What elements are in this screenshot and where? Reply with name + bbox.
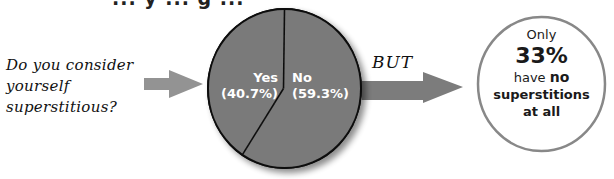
slice-name: No <box>292 70 312 85</box>
question-line: Do you consider <box>6 55 146 76</box>
question-line: superstitious? <box>6 97 146 118</box>
slice-name: Yes <box>253 70 278 85</box>
arrow-right-icon <box>362 72 463 103</box>
slice-percent: (40.7%) <box>218 86 278 102</box>
callout-value: 33% <box>478 43 605 69</box>
connector-text: BUT <box>372 52 413 72</box>
callout-line: have no <box>478 69 605 86</box>
question-line: yourself <box>6 76 146 97</box>
slice-label-yes: Yes (40.7%) <box>218 70 278 102</box>
callout-line: superstitions <box>478 86 605 103</box>
arrow-right-icon <box>144 70 203 98</box>
slice-divider <box>284 9 285 89</box>
question-text: Do you consider yourself superstitious? <box>6 55 146 118</box>
callout-emphasis: no <box>550 69 570 85</box>
callout-text: Only 33% have no superstitions at all <box>478 26 605 120</box>
callout-line: Only <box>478 26 605 43</box>
callout-prefix: have <box>514 70 550 85</box>
title-fragment: ... y ... g ... <box>112 0 244 9</box>
callout-line: at all <box>478 103 605 120</box>
slice-label-no: No (59.3%) <box>292 70 362 102</box>
slice-percent: (59.3%) <box>292 86 362 102</box>
